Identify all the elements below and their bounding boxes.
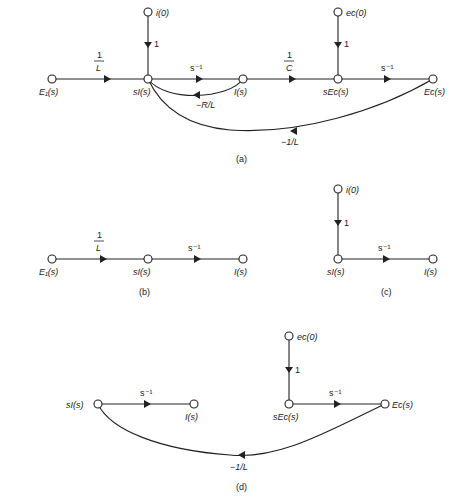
label-sI: sI(s)	[133, 267, 151, 277]
label-sI: sI(s)	[133, 87, 151, 97]
arrow-sI-I	[383, 255, 390, 263]
node-I	[429, 255, 437, 263]
arrow-Ec-sI	[290, 127, 297, 135]
label-I: I(s)	[185, 412, 198, 422]
arrow-sI-I	[144, 400, 151, 408]
gain-sI-I: s⁻¹	[140, 388, 153, 398]
arrow-ec0-sEc	[334, 42, 342, 48]
label-sI: sI(s)	[327, 267, 345, 277]
panel-c: i(0) sI(s) I(s) 1 s⁻¹ (c)	[327, 185, 437, 297]
node-ec0	[334, 8, 342, 16]
edge-Ec-sI-feedback	[98, 404, 385, 456]
gain-i0-sI: 1	[344, 218, 349, 228]
node-I	[239, 255, 247, 263]
caption-b: (b)	[139, 287, 150, 297]
node-sEc	[334, 75, 342, 83]
label-I: I(s)	[424, 267, 437, 277]
arrow-ec0-sEc	[285, 367, 293, 373]
label-sEc: sEᴄ(s)	[323, 87, 349, 97]
arrow-I-sI	[193, 91, 200, 99]
caption-c: (c)	[381, 287, 392, 297]
gain-I-sEc-num: 1	[287, 50, 292, 60]
label-E1: E₁(s)	[39, 87, 58, 97]
arrow-sEc-Ec	[334, 400, 341, 408]
gain-ec0-sEc: 1	[344, 39, 349, 49]
arrow-sEc-Ec	[384, 75, 391, 83]
label-ec0: eᴄ(0)	[297, 332, 318, 342]
node-sI	[144, 75, 152, 83]
node-sI	[334, 255, 342, 263]
gain-Ec-sI: −1/L	[230, 462, 248, 472]
gain-E1-sI-num: 1	[97, 230, 102, 240]
arrow-sI-I	[196, 75, 203, 83]
gain-E1-sI-den: L	[96, 243, 101, 253]
arrow-i0-sI	[334, 220, 342, 226]
signal-flow-graphs: E₁(s) sI(s) I(s) sEᴄ(s) Eᴄ(s) i(0) eᴄ(0)…	[0, 0, 452, 499]
node-sI	[94, 400, 102, 408]
gain-sI-I: s⁻¹	[188, 243, 201, 253]
gain-sI-I: s⁻¹	[190, 63, 203, 73]
label-sI: sI(s)	[66, 400, 84, 410]
panel-d: sI(s) I(s) eᴄ(0) sEᴄ(s) Eᴄ(s) 1 s⁻¹ s⁻¹ …	[66, 332, 413, 492]
node-ec0	[285, 332, 293, 340]
panel-b: E₁(s) sI(s) I(s) 1 L s⁻¹ (b)	[39, 230, 247, 297]
gain-E1-sI-den: L	[96, 63, 101, 73]
node-I	[190, 400, 198, 408]
arrow-i0-sI	[144, 42, 152, 48]
label-ec0: eᴄ(0)	[346, 8, 367, 18]
edge-I-sI-feedback	[148, 79, 243, 96]
node-I	[239, 75, 247, 83]
label-Ec: Eᴄ(s)	[392, 400, 413, 410]
panel-a: E₁(s) sI(s) I(s) sEᴄ(s) Eᴄ(s) i(0) eᴄ(0)…	[39, 8, 445, 164]
gain-sEc-Ec: s⁻¹	[329, 388, 342, 398]
gain-ec0-sEc: 1	[295, 365, 300, 375]
node-i0	[144, 8, 152, 16]
caption-a: (a)	[236, 154, 247, 164]
label-i0: i(0)	[156, 8, 169, 18]
label-Ec: Eᴄ(s)	[424, 87, 445, 97]
caption-d: (d)	[236, 482, 247, 492]
node-E1	[48, 255, 56, 263]
gain-sEc-Ec: s⁻¹	[381, 63, 394, 73]
gain-E1-sI-num: 1	[97, 50, 102, 60]
label-I: I(s)	[234, 267, 247, 277]
node-sEc	[285, 400, 293, 408]
arrow-sI-I	[194, 255, 201, 263]
gain-sI-I: s⁻¹	[378, 243, 391, 253]
node-Ec	[381, 400, 389, 408]
gain-i0-sI: 1	[154, 39, 159, 49]
gain-I-sI: −R/L	[196, 100, 215, 110]
gain-Ec-sI: −1/L	[281, 137, 299, 147]
label-sEc: sEᴄ(s)	[273, 412, 299, 422]
arrow-I-sEc	[289, 75, 296, 83]
node-E1	[48, 75, 56, 83]
arrow-Ec-sI	[238, 451, 245, 459]
arrow-E1-sI	[104, 75, 111, 83]
label-E1: E₁(s)	[39, 267, 58, 277]
arrow-E1-sI	[100, 255, 107, 263]
label-i0: i(0)	[346, 185, 359, 195]
gain-I-sEc-den: C	[286, 63, 293, 73]
label-I: I(s)	[234, 87, 247, 97]
node-Ec	[429, 75, 437, 83]
node-sI	[144, 255, 152, 263]
node-i0	[334, 185, 342, 193]
edge-Ec-sI-feedback	[148, 79, 433, 131]
